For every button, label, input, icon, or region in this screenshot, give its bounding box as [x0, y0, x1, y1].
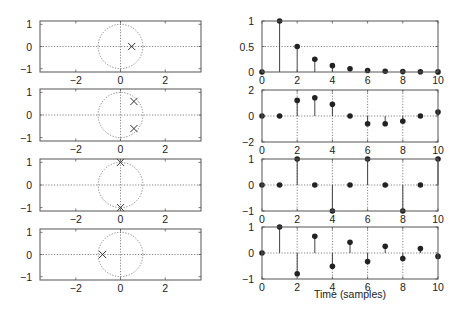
x-tick-label: 0: [118, 213, 124, 225]
x-tick-label: 2: [162, 74, 168, 86]
x-tick-label: 2: [294, 213, 300, 225]
x-tick-label: 0: [259, 144, 265, 156]
stem-marker: [312, 234, 318, 240]
x-tick-label: 6: [365, 144, 371, 156]
x-tick-label: 4: [329, 144, 335, 156]
stem-marker: [347, 66, 353, 72]
y-tick-label: 0: [26, 109, 32, 121]
stem-marker: [312, 56, 318, 62]
stem-marker: [400, 118, 406, 124]
stem-marker: [347, 182, 353, 188]
stem-marker: [294, 98, 300, 104]
x-tick-label: −2: [70, 74, 82, 86]
stem-marker: [382, 68, 388, 74]
x-tick-label: 0: [259, 213, 265, 225]
stem-marker: [382, 182, 388, 188]
stem-marker: [365, 121, 371, 127]
pole-zero-plot-3: −202−101: [20, 156, 201, 225]
y-tick-label: 1: [248, 15, 254, 27]
x-tick-label: 4: [329, 213, 335, 225]
impulse-response-1: 024681000.51: [239, 15, 444, 86]
x-tick-label: 2: [162, 282, 168, 294]
y-tick-label: 1: [26, 226, 32, 238]
stem-marker: [347, 113, 353, 119]
x-tick-label: 2: [162, 213, 168, 225]
y-tick-label: −1: [20, 63, 32, 75]
y-tick-label: 0: [248, 179, 254, 191]
x-tick-label: 2: [162, 143, 168, 155]
x-tick-label: −2: [70, 143, 82, 155]
stem-marker: [330, 63, 336, 69]
stem-marker: [418, 182, 424, 188]
y-tick-label: 0: [26, 41, 32, 53]
stem-marker: [330, 102, 336, 108]
stem-marker: [382, 243, 388, 249]
stem-marker: [277, 113, 283, 119]
y-tick-label: 0: [248, 247, 254, 259]
y-tick-label: 1: [26, 86, 32, 98]
x-tick-label: 6: [365, 213, 371, 225]
stem-marker: [277, 182, 283, 188]
stem-marker: [365, 259, 371, 265]
x-tick-label: 0: [259, 281, 265, 293]
stem-marker: [418, 113, 424, 119]
x-tick-label: 10: [432, 74, 444, 86]
x-tick-label: 2: [294, 144, 300, 156]
y-tick-label: −2: [242, 136, 254, 148]
y-tick-label: 1: [248, 221, 254, 233]
stem-marker: [294, 44, 300, 50]
impulse-response-3: 0246810−101: [242, 153, 444, 225]
x-tick-label: 0: [118, 74, 124, 86]
stem-marker: [312, 95, 318, 101]
y-tick-label: 0.5: [239, 41, 254, 53]
x-tick-label: 8: [400, 213, 406, 225]
impulse-response-2: 0246810−202: [242, 84, 444, 156]
x-tick-label: 10: [432, 213, 444, 225]
pole-zero-plot-1: −202−101: [20, 18, 201, 86]
x-tick-label: 6: [365, 74, 371, 86]
x-tick-label: 10: [432, 144, 444, 156]
x-axis-label: Time (samples): [314, 288, 386, 300]
impulse-response-4: 0246810−101: [242, 221, 444, 293]
y-tick-label: 0: [26, 179, 32, 191]
x-tick-label: 10: [432, 281, 444, 293]
x-tick-label: −2: [70, 213, 82, 225]
y-tick-label: 0: [248, 110, 254, 122]
x-tick-label: 8: [400, 281, 406, 293]
stem-marker: [347, 240, 353, 246]
y-tick-label: −1: [20, 132, 32, 144]
figure: −202−101024681000.51−202−1010246810−202−…: [0, 0, 465, 315]
x-tick-label: 0: [259, 74, 265, 86]
x-tick-label: 4: [329, 74, 335, 86]
stem-marker: [382, 121, 388, 127]
stem-marker: [400, 256, 406, 262]
y-tick-label: 1: [26, 156, 32, 168]
x-tick-label: 0: [118, 143, 124, 155]
x-tick-label: 0: [118, 282, 124, 294]
stem-marker: [294, 271, 300, 277]
stem-marker: [330, 263, 336, 269]
y-tick-label: −1: [242, 205, 254, 217]
y-tick-label: 0: [26, 249, 32, 261]
y-tick-label: 2: [248, 84, 254, 96]
y-tick-label: 1: [248, 153, 254, 165]
stem-marker: [312, 182, 318, 188]
pole-x-icon: [128, 43, 135, 50]
plots-layer: −202−101024681000.51−202−1010246810−202−…: [20, 15, 444, 294]
y-tick-label: 0: [248, 66, 254, 78]
pole-zero-plot-4: −202−101: [20, 226, 201, 294]
pole-x-icon: [130, 125, 137, 132]
y-tick-label: −1: [242, 273, 254, 285]
y-tick-label: −1: [20, 271, 32, 283]
x-tick-label: 8: [400, 144, 406, 156]
y-tick-label: 1: [26, 18, 32, 30]
y-tick-label: −1: [20, 202, 32, 214]
x-tick-label: 2: [294, 74, 300, 86]
pole-x-icon: [130, 98, 137, 105]
stem-marker: [418, 246, 424, 252]
x-tick-label: 2: [294, 281, 300, 293]
x-tick-label: −2: [70, 282, 82, 294]
x-tick-label: 8: [400, 74, 406, 86]
pole-zero-plot-2: −202−101: [20, 86, 201, 155]
